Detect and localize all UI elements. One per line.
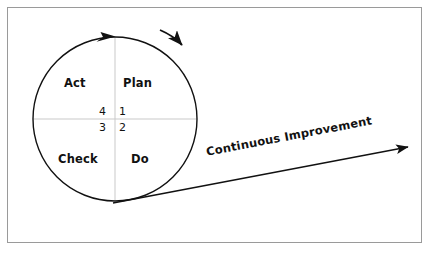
clockwise-cycle-arrow-icon [97,32,116,42]
quadrant-number-plan: 1 [119,105,126,118]
diagram-canvas: Act Plan Check Do 4 1 3 2 Continuous Imp… [0,0,430,254]
quadrant-label-plan: Plan [123,76,152,90]
continuous-improvement-arrow-icon [113,147,408,203]
quadrant-label-check: Check [58,152,98,166]
quadrant-label-act: Act [64,76,86,90]
quadrant-number-check: 3 [99,121,106,134]
rotation-direction-arrow-icon [160,30,182,45]
quadrant-label-do: Do [131,152,149,166]
quadrant-number-do: 2 [119,121,126,134]
quadrant-number-act: 4 [99,105,106,118]
